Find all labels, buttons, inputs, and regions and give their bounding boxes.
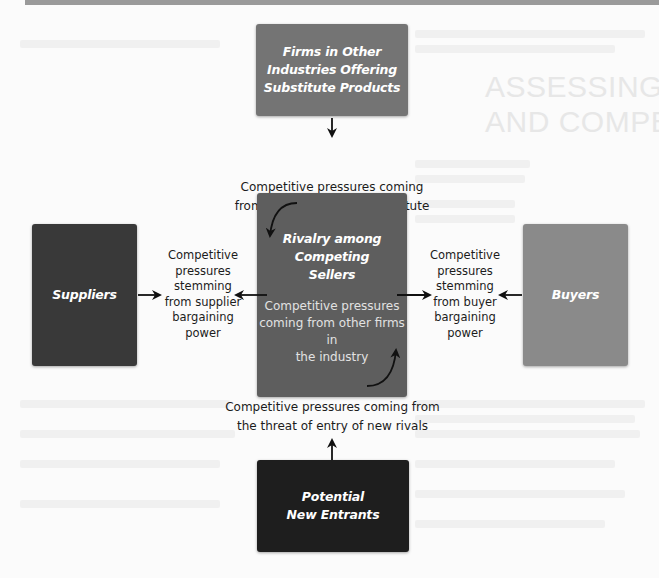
- buyer-pressure-line-6: power: [420, 326, 510, 342]
- buyer-pressure-line-5: bargaining: [420, 310, 510, 326]
- supplier-pressure-line-1: Competitive: [158, 248, 248, 264]
- rivalry-title-line-2: Competing: [283, 248, 382, 266]
- suppliers-box: Suppliers: [32, 224, 137, 366]
- buyer-pressure-line-4: from buyer: [420, 295, 510, 311]
- background-text-line: [20, 400, 230, 408]
- background-heading-line-2: AND COMPETITIVE ENVIRONMENT: [485, 105, 659, 140]
- rivalry-description: Competitive pressures coming from other …: [257, 298, 407, 366]
- new-entrants-pressure-line-2: the threat of entry of new rivals: [205, 417, 460, 436]
- buyers-title: Buyers: [552, 286, 599, 304]
- background-text-line: [415, 160, 530, 168]
- background-heading-line-1: ASSESSING THE COMPETITIVE INDUSTRY: [485, 70, 659, 105]
- rivalry-description-line-1: Competitive pressures: [257, 298, 407, 315]
- buyer-pressure-line-2: pressures: [420, 264, 510, 280]
- supplier-pressure-line-2: pressures: [158, 264, 248, 280]
- new-entrants-box: Potential New Entrants: [257, 460, 409, 552]
- buyer-pressure-line-3: stemming: [420, 279, 510, 295]
- rivalry-title-line-3: Sellers: [283, 266, 382, 284]
- substitutes-title-line-2: Industries Offering: [264, 61, 401, 79]
- supplier-pressure-line-6: power: [158, 326, 248, 342]
- substitutes-title-line-3: Substitute Products: [264, 79, 401, 97]
- new-entrants-pressure-line-1: Competitive pressures coming from: [205, 398, 460, 417]
- suppliers-title: Suppliers: [52, 286, 117, 304]
- background-heading: ASSESSING THE COMPETITIVE INDUSTRY AND C…: [485, 70, 659, 139]
- new-entrants-pressure-label: Competitive pressures coming from the th…: [205, 398, 460, 436]
- rivalry-title-line-1: Rivalry among: [283, 230, 382, 248]
- background-text-line: [415, 45, 615, 53]
- new-entrants-title-line-2: New Entrants: [287, 506, 380, 524]
- new-entrants-title-line-1: Potential: [287, 488, 380, 506]
- buyers-box: Buyers: [523, 224, 628, 366]
- background-text-line: [20, 500, 220, 508]
- background-text-line: [20, 460, 220, 468]
- supplier-pressure-label: Competitive pressures stemming from supp…: [158, 248, 248, 341]
- supplier-pressure-line-5: bargaining: [158, 310, 248, 326]
- substitutes-title-line-1: Firms in Other: [264, 43, 401, 61]
- rivalry-description-line-3: the industry: [257, 349, 407, 366]
- buyer-pressure-line-1: Competitive: [420, 248, 510, 264]
- background-text-line: [415, 520, 605, 528]
- rivalry-box: Rivalry among Competing Sellers Competit…: [257, 193, 407, 397]
- background-text-line: [20, 430, 235, 438]
- supplier-pressure-line-3: stemming: [158, 279, 248, 295]
- rivalry-description-line-2: coming from other firms in: [257, 315, 407, 349]
- top-band: [25, 0, 659, 5]
- supplier-pressure-line-4: from supplier: [158, 295, 248, 311]
- background-text-line: [415, 460, 615, 468]
- background-text-line: [20, 40, 220, 48]
- buyer-pressure-label: Competitive pressures stemming from buye…: [420, 248, 510, 341]
- substitutes-box: Firms in Other Industries Offering Subst…: [256, 24, 408, 116]
- background-text-line: [415, 30, 645, 38]
- rivalry-title: Rivalry among Competing Sellers: [283, 230, 382, 284]
- background-text-line: [415, 490, 625, 498]
- substitutes-title: Firms in Other Industries Offering Subst…: [264, 43, 401, 97]
- new-entrants-title: Potential New Entrants: [287, 488, 380, 524]
